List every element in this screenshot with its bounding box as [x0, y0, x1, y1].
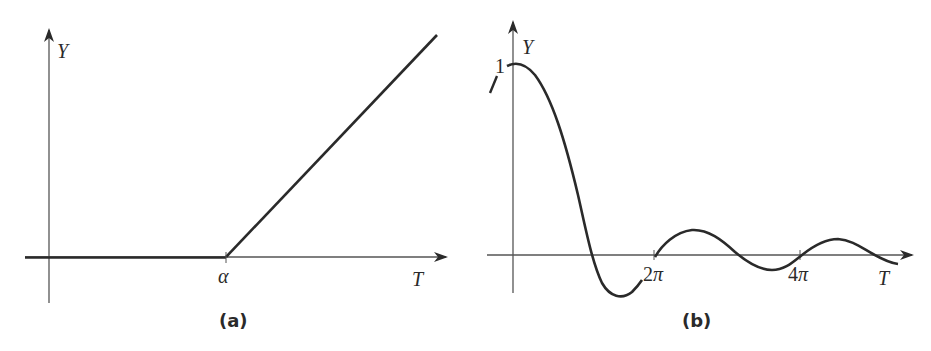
ramp-sloped-segment: [226, 35, 437, 257]
y-axis-label: Y: [522, 36, 535, 58]
panel-a: Y α T (a): [25, 30, 446, 331]
caption-a: (a): [219, 310, 248, 331]
y-axis-label: Y: [57, 40, 70, 62]
figure: Y α T (a) 1 Y 2π 4π T (b): [0, 0, 931, 351]
tick-label-2pi: 2π: [643, 263, 664, 285]
damped-curve-tail: [655, 230, 898, 270]
alpha-label: α: [218, 265, 229, 287]
damped-curve-main: [507, 64, 642, 296]
panel-b: 1 Y 2π 4π T (b): [487, 22, 912, 331]
stray-mark: [490, 76, 497, 93]
tick-label-4pi: 4π: [788, 263, 809, 285]
t-axis-label: T: [412, 268, 425, 290]
caption-b: (b): [682, 310, 711, 331]
y-tick-label-1: 1: [495, 55, 505, 77]
t-axis-label: T: [878, 267, 891, 289]
